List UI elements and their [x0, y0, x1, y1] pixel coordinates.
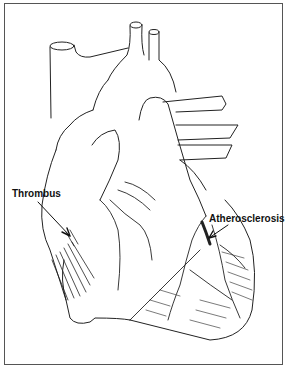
atherosclerosis-label: Atherosclerosis: [209, 213, 285, 224]
thrombus-arrow: [38, 202, 70, 236]
coronary-arteries: [100, 182, 245, 320]
pulmonary-veins: [163, 96, 238, 190]
thrombus-region: [52, 230, 94, 300]
heart-illustration: [0, 0, 290, 371]
superior-vena-cava: [50, 42, 128, 118]
atherosclerosis-arrow: [209, 225, 228, 238]
atherosclerosis-plaque: [202, 222, 210, 244]
thrombus-label: Thrombus: [12, 188, 61, 199]
aortic-arch: [93, 22, 176, 110]
myocardium-hatching: [146, 252, 252, 328]
